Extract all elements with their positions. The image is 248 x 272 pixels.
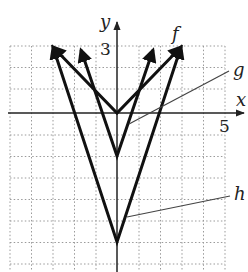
y-tick-3: 3 [100, 39, 111, 59]
leader-h [127, 196, 230, 217]
x-tick-5: 5 [219, 116, 230, 136]
graph-canvas: y x 3 5 f g h [0, 0, 248, 272]
label-f: f [170, 23, 182, 44]
x-axis-label: x [236, 89, 246, 110]
label-h: h [234, 183, 246, 204]
y-axis-label: y [99, 11, 111, 32]
label-g: g [233, 59, 245, 80]
